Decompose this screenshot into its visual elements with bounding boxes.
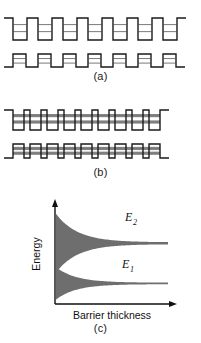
series-label-e1-subscript: 1 <box>130 265 134 274</box>
series-label-e1-text: E <box>121 257 130 271</box>
x-axis-arrow-icon <box>169 301 177 307</box>
series-label-e2-subscript: 2 <box>133 218 137 227</box>
potential-profile-outline <box>4 144 169 158</box>
potential-profile-outline <box>4 18 186 40</box>
panel-caption-b: (b) <box>0 166 201 178</box>
superlattice-barriers-thick <box>4 54 185 67</box>
y-axis-arrow-icon <box>52 199 58 207</box>
potential-profile-outline <box>4 54 185 67</box>
panel-caption-c: (c) <box>0 322 201 334</box>
panel-b-graphic <box>0 96 201 168</box>
energy-band-wedge-e_1 <box>56 267 168 299</box>
series-label-e2: E 2 <box>124 210 137 227</box>
superlattice-barriers-thin <box>4 144 169 158</box>
energy-band-wedge-e_2 <box>56 214 168 273</box>
superlattice-wells-thick-barriers <box>4 18 186 40</box>
series-label-e2-text: E <box>124 210 133 224</box>
series-label-e1: E 1 <box>121 257 134 274</box>
x-axis-title: Barrier thickness <box>73 309 151 320</box>
energy-band-wedges <box>56 214 168 300</box>
energy-vs-barrier-thickness-chart: E 2 E 1 Energy Barrier thickness <box>0 190 201 320</box>
y-axis-title: Energy <box>30 237 42 271</box>
superlattice-wells-thin-barriers <box>4 110 169 130</box>
panel-a-graphic <box>0 4 201 74</box>
potential-profile-outline <box>4 110 169 130</box>
panel-caption-a: (a) <box>0 70 201 82</box>
figure-root: (a) (b) E 2 E 1 <box>0 0 201 343</box>
panel-c: E 2 E 1 Energy Barrier thickness <box>0 190 201 343</box>
